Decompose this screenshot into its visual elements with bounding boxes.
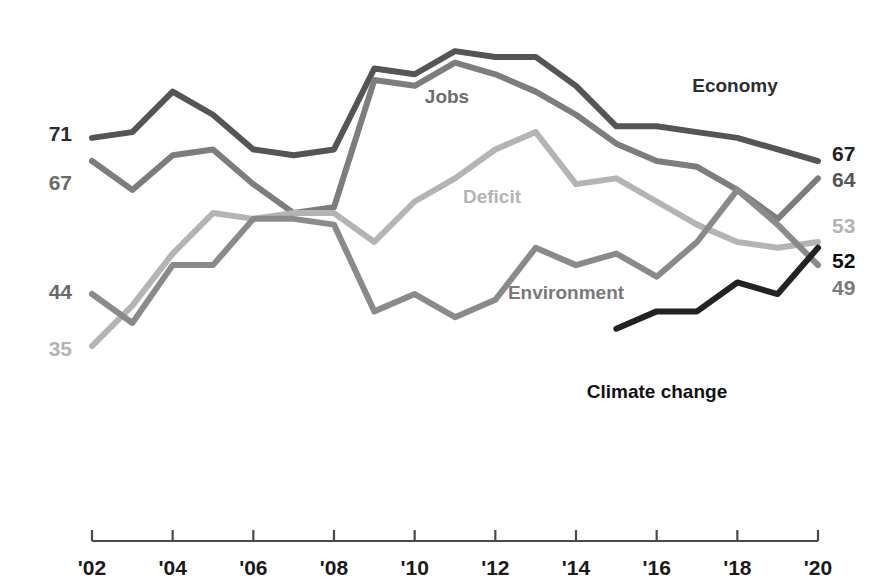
x-axis-label-16: '16 (642, 556, 670, 579)
x-axis-label-06: '06 (239, 556, 267, 579)
series-line-climate-change (616, 248, 818, 329)
start-value-label-35: 35 (49, 337, 73, 360)
series-label-deficit: Deficit (463, 186, 522, 207)
x-axis-label-12: '12 (481, 556, 509, 579)
end-value-label-52: 52 (832, 249, 855, 272)
policy-priorities-chart: EconomyJobsDeficitEnvironmentClimate cha… (0, 0, 881, 581)
x-axis-label-02: '02 (78, 556, 106, 579)
x-axis-group: '02'04'06'08'10'12'14'16'18'20 (78, 530, 832, 579)
series-label-jobs: Jobs (425, 86, 469, 107)
chart-plot-area: EconomyJobsDeficitEnvironmentClimate cha… (0, 0, 881, 581)
x-axis-label-08: '08 (320, 556, 349, 579)
left-value-labels-group: 71674435 (49, 122, 73, 360)
end-value-label-64: 64 (832, 168, 856, 191)
end-value-label-67: 67 (832, 142, 855, 165)
series-label-environment: Environment (508, 282, 625, 303)
x-axis-label-10: '10 (400, 556, 428, 579)
start-value-label-67: 67 (49, 171, 72, 194)
start-value-label-71: 71 (49, 122, 73, 145)
start-value-label-44: 44 (49, 280, 73, 303)
series-label-economy: Economy (692, 75, 778, 96)
right-value-labels-group: 6764535249 (832, 142, 856, 299)
x-axis-label-04: '04 (158, 556, 187, 579)
x-axis-label-14: '14 (562, 556, 591, 579)
x-axis-label-18: '18 (723, 556, 752, 579)
series-label-climate-change: Climate change (587, 381, 727, 402)
end-value-label-53: 53 (832, 214, 855, 237)
end-value-label-49: 49 (832, 276, 855, 299)
x-axis-label-20: '20 (804, 556, 832, 579)
